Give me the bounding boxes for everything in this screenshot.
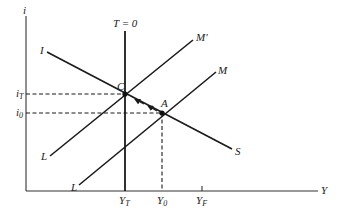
is-lm-diagram: i Y T = 0 I S L M' L M C A iT i0 YT Y0 Y… [0, 0, 354, 213]
lm-start-label: L [70, 181, 77, 193]
y-axis-label: i [23, 4, 26, 16]
point-a [159, 110, 164, 115]
y-f-label: YF [196, 194, 207, 208]
lm-prime-end-label: M' [195, 31, 208, 43]
is-curve-end-label: S [235, 145, 241, 157]
i-0-label: i0 [16, 106, 23, 120]
x-axis-label: Y [321, 184, 329, 196]
y-t-label: YT [119, 194, 130, 208]
point-c-label: C [117, 80, 125, 92]
t-zero-label: T = 0 [113, 17, 138, 29]
lm-end-label: M [217, 64, 228, 76]
y-0-label: Y0 [157, 194, 167, 208]
point-c [122, 91, 127, 96]
lm-prime-start-label: L [40, 150, 47, 162]
lm-curve [79, 72, 216, 185]
lm-prime-curve [50, 40, 193, 156]
point-a-label: A [160, 97, 168, 109]
i-t-label: iT [16, 87, 24, 101]
is-curve-start-label: I [39, 44, 45, 56]
